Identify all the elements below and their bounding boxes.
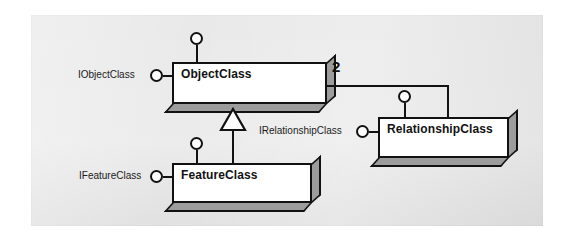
objectclass-top-interface-icon: [190, 32, 203, 45]
objectclass-relationshipclass-association-vertical: [447, 85, 449, 118]
objectclass-top-interface-stem: [196, 45, 198, 63]
featureclass-box-depth-bottom: [164, 203, 312, 212]
irelationshipclass-interface-icon: [356, 125, 369, 138]
featureclass-box-depth-right: [312, 155, 321, 203]
iobjectclass-interface-icon: [150, 69, 163, 82]
generalization-stem: [232, 130, 234, 164]
featureclass-name: FeatureClass: [181, 168, 258, 182]
relationshipclass-name: RelationshipClass: [387, 122, 493, 136]
ifeatureclass-label: IFeatureClass: [79, 170, 141, 181]
iobjectclass-label: IObjectClass: [78, 69, 135, 80]
featureclass-top-interface-stem: [196, 150, 198, 164]
association-multiplicity-label: 2: [332, 58, 340, 75]
class-box-featureclass[interactable]: FeatureClass: [172, 163, 312, 203]
class-box-objectclass[interactable]: ObjectClass: [172, 62, 327, 104]
irelationshipclass-label: IRelationshipClass: [259, 125, 342, 136]
ifeatureclass-interface-icon: [150, 170, 163, 183]
uml-diagram-root: ObjectClass RelationshipClass FeatureCla…: [0, 0, 571, 245]
objectclass-relationshipclass-association-horizontal: [327, 85, 449, 87]
ifeatureclass-stem: [163, 176, 174, 178]
objectclass-name: ObjectClass: [181, 67, 251, 81]
iobjectclass-stem: [163, 75, 174, 77]
class-box-relationshipclass[interactable]: RelationshipClass: [378, 117, 509, 158]
relationshipclass-box-depth-bottom: [370, 158, 509, 167]
featureclass-top-interface-icon: [190, 137, 203, 150]
relationshipclass-top-interface-stem: [404, 103, 406, 118]
relationshipclass-top-interface-icon: [398, 90, 411, 103]
generalization-hollow-triangle-icon: [219, 107, 247, 132]
relationshipclass-box-depth-right: [509, 109, 518, 158]
irelationshipclass-stem: [369, 131, 380, 133]
